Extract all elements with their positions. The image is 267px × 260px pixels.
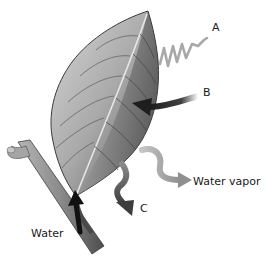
leaf-diagram: A B Water vapor C Water	[0, 0, 267, 260]
label-water-vapor: Water vapor	[193, 176, 261, 188]
label-a: A	[212, 22, 220, 34]
arrow-water-vapor	[142, 149, 192, 188]
diagram-canvas	[0, 0, 267, 260]
label-water: Water	[31, 228, 64, 240]
arrow-a-wavy-line	[160, 38, 207, 66]
label-b: B	[203, 87, 211, 99]
arrow-c	[116, 164, 134, 216]
label-c: C	[140, 203, 148, 215]
